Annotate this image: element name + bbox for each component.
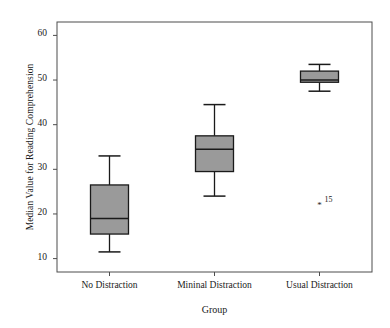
box-iqr xyxy=(91,185,129,234)
outlier-label: 15 xyxy=(325,195,333,204)
y-tick-label: 50 xyxy=(21,73,47,83)
y-tick-label: 30 xyxy=(21,162,47,172)
y-tick-label: 20 xyxy=(21,207,47,217)
box-iqr xyxy=(196,136,234,172)
y-tick-label: 10 xyxy=(21,252,47,262)
plot-area: *15 xyxy=(0,0,390,328)
y-tick-label: 60 xyxy=(21,28,47,38)
y-tick-label: 40 xyxy=(21,118,47,128)
x-tick-label: No Distraction xyxy=(50,280,170,290)
boxplot-figure: Median Value for Reading Comprehension G… xyxy=(0,0,390,328)
outlier-marker: * xyxy=(317,200,322,210)
x-tick-label: Usual Distraction xyxy=(260,280,380,290)
x-tick-label: Mininal Distraction xyxy=(155,280,275,290)
